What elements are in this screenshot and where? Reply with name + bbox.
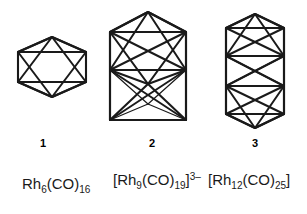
cluster-structure-3 — [222, 10, 288, 132]
formula-2-metal: Rh — [117, 171, 136, 188]
formula-2-charge: 3– — [190, 171, 201, 182]
structure-label-1: 1 — [33, 138, 53, 149]
formula-3-suffix: ] — [286, 171, 290, 188]
formula-3-metal: Rh — [212, 171, 231, 188]
formula-3-ligand: (CO) — [242, 171, 275, 188]
formula-structure-2: [Rh9(CO)19]3– — [113, 172, 201, 191]
formula-1-metal: Rh — [22, 175, 41, 192]
formula-2-ligand: (CO) — [142, 171, 175, 188]
structure-label-2: 2 — [142, 138, 162, 149]
formula-3-ligand-count: 25 — [275, 180, 286, 191]
formula-structure-1: Rh6(CO)16 — [22, 176, 90, 195]
formula-structure-3: [Rh12(CO)25] — [208, 172, 290, 191]
formula-1-ligand: (CO) — [47, 175, 80, 192]
figure-canvas: 1 2 3 Rh6(CO)16 [Rh9(CO)19]3– [Rh12(CO)2… — [0, 0, 307, 214]
structure-label-3: 3 — [245, 138, 265, 149]
formula-1-ligand-count: 16 — [79, 184, 90, 195]
formula-2-ligand-count: 19 — [174, 180, 185, 191]
cluster-structure-1 — [14, 33, 90, 101]
formula-3-metal-count: 12 — [231, 180, 242, 191]
cluster-structure-2 — [106, 8, 190, 124]
